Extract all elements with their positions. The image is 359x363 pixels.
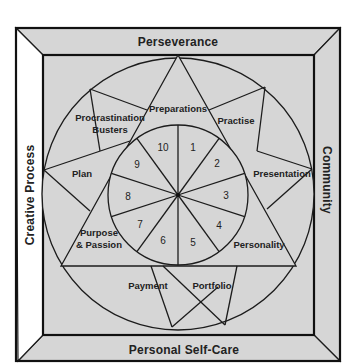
- label-preparations: Preparations: [149, 103, 207, 114]
- label-plan: Plan: [72, 168, 92, 179]
- label-personal-self-care: Personal Self-Care: [129, 343, 239, 357]
- label-presentation: Presentation: [253, 168, 311, 179]
- label-procrastination-line1: Procrastination: [75, 112, 145, 123]
- wheel-number-3: 3: [223, 190, 229, 201]
- label-payment: Payment: [128, 280, 168, 291]
- wheel-number-10: 10: [157, 142, 169, 153]
- ten-p-framework-diagram: 1 2 3 4 5 6 7 8 9 10 Preparations Practi…: [0, 0, 359, 363]
- wheel-number-2: 2: [214, 158, 220, 169]
- wheel-number-8: 8: [125, 191, 131, 202]
- label-practise: Practise: [218, 115, 255, 126]
- label-perseverance: Perseverance: [138, 35, 219, 49]
- label-purpose-line2: & Passion: [76, 239, 122, 250]
- wheel-number-5: 5: [190, 237, 196, 248]
- label-purpose-line1: Purpose: [80, 227, 118, 238]
- label-personality: Personality: [233, 239, 285, 250]
- label-community: Community: [320, 146, 334, 214]
- label-creative-process: Creative Process: [23, 145, 37, 246]
- label-procrastination-line2: Busters: [92, 124, 127, 135]
- wheel-number-9: 9: [134, 159, 140, 170]
- wheel-number-6: 6: [160, 235, 166, 246]
- wheel-hub: [176, 193, 180, 197]
- label-portfolio: Portfolio: [192, 280, 231, 291]
- wheel-number-4: 4: [216, 220, 222, 231]
- wheel-number-7: 7: [137, 219, 143, 230]
- wheel-number-1: 1: [190, 142, 196, 153]
